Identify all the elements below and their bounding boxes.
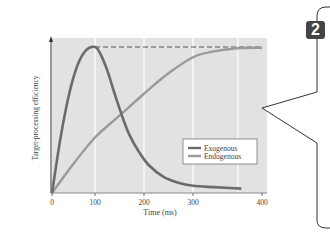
y-axis-label: Target-processing efficiency (31, 75, 40, 160)
x-tick-label: 0 (50, 198, 54, 207)
x-tick-label: 100 (89, 198, 101, 207)
plot-background (52, 38, 267, 193)
x-tick-label: 300 (187, 198, 199, 207)
x-tick-label: 400 (256, 198, 268, 207)
x-axis-label: Time (ms) (143, 208, 177, 217)
chart: 0100200300400 Target-processing efficien… (0, 0, 330, 247)
callout-bubble (262, 7, 330, 228)
legend: Exogenous Endogenous (183, 139, 257, 164)
legend-endogenous-label: Endogenous (204, 152, 241, 161)
x-tick-label: 200 (138, 198, 150, 207)
step-number-badge: 2 (306, 21, 325, 39)
x-ticks: 0100200300400 (50, 193, 268, 207)
